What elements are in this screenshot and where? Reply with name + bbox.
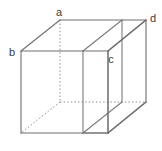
vertex-label-c: c <box>108 53 114 65</box>
hidden-edge-back-bottom-left-to-front-bottom-left <box>21 102 60 133</box>
vertex-label-b: b <box>9 46 15 58</box>
cube-edge-front-bottom-right-to-back-bottom-right <box>108 102 146 133</box>
vertex-label-a: a <box>56 6 63 18</box>
cube-edge-front-top-left-to-back-top-left <box>21 20 60 51</box>
cross-section-plane-group <box>83 20 146 133</box>
cube-diagram: a b c d <box>0 0 162 151</box>
cube-edge-front-top-right-to-back-top-right <box>108 20 146 51</box>
plane-edge-front-left-top-to-back-left-top <box>83 20 122 51</box>
plane-edge-front-left-bottom-to-back-left-bottom <box>83 102 122 133</box>
vertex-label-d: d <box>150 12 156 24</box>
cube-diagram-svg: a b c d <box>0 0 162 151</box>
